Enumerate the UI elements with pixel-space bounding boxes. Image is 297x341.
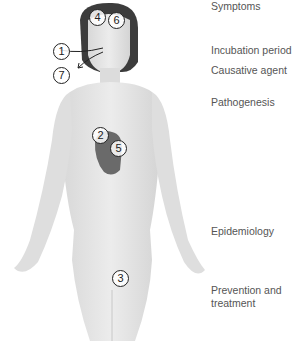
marker-6: 6	[108, 12, 125, 29]
marker-3: 3	[112, 270, 129, 287]
label-prevention-line1: Prevention and	[211, 284, 282, 296]
marker-5: 5	[110, 140, 127, 157]
marker-7: 7	[53, 67, 70, 84]
label-incubation-period: Incubation period	[211, 44, 292, 56]
marker-1: 1	[53, 43, 70, 60]
label-pathogenesis: Pathogenesis	[211, 96, 275, 108]
label-symptoms: Symptoms	[211, 0, 261, 12]
marker-4: 4	[89, 9, 106, 26]
label-causative-agent: Causative agent	[211, 64, 287, 76]
label-epidemiology: Epidemiology	[211, 225, 274, 237]
marker-2: 2	[92, 127, 109, 144]
human-body-illustration	[0, 0, 210, 341]
label-prevention-line2: treatment	[211, 297, 255, 309]
